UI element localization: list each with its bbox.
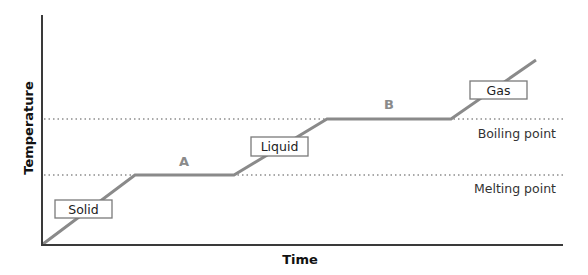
- liquid-label: Liquid: [251, 137, 308, 156]
- y-axis-title: Temperature: [21, 81, 36, 175]
- liquid-label-text: Liquid: [261, 139, 299, 154]
- x-axis-title: Time: [282, 252, 318, 267]
- gas-label: Gas: [470, 81, 527, 99]
- segment-a-label: A: [179, 154, 189, 169]
- solid-label: Solid: [55, 200, 112, 218]
- segment-b-label: B: [384, 97, 394, 112]
- melting-point-label: Melting point: [474, 181, 556, 196]
- heating-curve-diagram: Solid Liquid Gas A B Boiling point Melti…: [0, 0, 588, 275]
- solid-label-text: Solid: [68, 202, 98, 217]
- gas-label-text: Gas: [487, 83, 511, 98]
- boiling-point-label: Boiling point: [478, 126, 556, 141]
